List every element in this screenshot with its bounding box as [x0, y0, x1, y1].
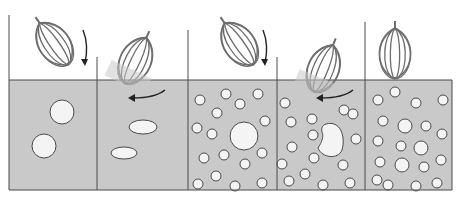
panel-3	[188, 8, 277, 191]
air-bubble	[240, 159, 250, 169]
air-bubble	[373, 136, 383, 146]
rotation-arrow-icon	[263, 30, 267, 63]
air-bubble	[280, 98, 290, 108]
air-bubble	[307, 114, 317, 124]
panel-1	[9, 8, 97, 190]
rotation-arrow-icon	[83, 30, 87, 63]
air-bubble	[221, 89, 231, 99]
air-bubble	[50, 100, 74, 124]
air-bubble	[211, 171, 221, 181]
air-bubble	[436, 155, 446, 165]
air-bubble	[284, 176, 294, 186]
air-bubble	[308, 130, 318, 140]
panel-2	[97, 22, 188, 190]
liquid	[97, 80, 188, 190]
whisk-icon	[379, 21, 411, 79]
air-bubble	[193, 179, 203, 189]
air-bubble	[287, 142, 297, 152]
air-bubble	[438, 95, 448, 105]
air-bubble	[286, 117, 296, 127]
air-bubble	[395, 158, 409, 172]
air-bubble	[396, 141, 406, 151]
air-bubble	[345, 178, 355, 188]
diagram-canvas	[0, 0, 464, 209]
air-bubble	[207, 129, 217, 139]
air-bubble	[390, 87, 400, 97]
air-bubble	[338, 160, 348, 170]
air-bubble	[199, 153, 209, 163]
air-bubble	[348, 109, 358, 119]
air-bubble	[398, 119, 412, 133]
air-bubble	[260, 116, 270, 126]
air-bubble	[111, 147, 137, 159]
air-bubble	[437, 129, 447, 139]
air-bubble	[383, 180, 393, 190]
air-bubble	[373, 95, 383, 105]
air-bubble	[419, 162, 429, 172]
air-bubble	[257, 148, 267, 158]
air-bubble	[421, 121, 431, 131]
panel-4	[277, 30, 365, 190]
air-bubble	[212, 108, 222, 118]
air-bubble	[235, 99, 245, 109]
whisk-icon	[23, 8, 82, 74]
air-bubble	[219, 150, 229, 160]
air-bubble	[230, 122, 258, 150]
air-bubble	[129, 120, 157, 134]
air-bubble	[277, 159, 287, 169]
air-bubble	[372, 175, 382, 185]
air-bubble	[351, 134, 361, 144]
air-bubble	[257, 178, 267, 188]
air-bubble	[339, 105, 349, 115]
air-bubble	[432, 178, 442, 188]
air-bubble	[414, 141, 428, 155]
air-bubble	[195, 95, 205, 105]
air-bubble	[32, 134, 56, 158]
air-bubble	[318, 123, 343, 156]
liquid	[9, 80, 97, 190]
whisking-foam-diagram	[0, 0, 464, 209]
air-bubble	[309, 153, 319, 163]
panel-5	[365, 21, 452, 191]
whisk-icon	[208, 8, 267, 74]
air-bubble	[378, 116, 388, 126]
air-bubble	[300, 169, 310, 179]
air-bubble	[411, 98, 421, 108]
air-bubble	[192, 123, 202, 133]
air-bubble	[375, 157, 385, 167]
air-bubble	[318, 180, 328, 190]
air-bubble	[253, 89, 263, 99]
